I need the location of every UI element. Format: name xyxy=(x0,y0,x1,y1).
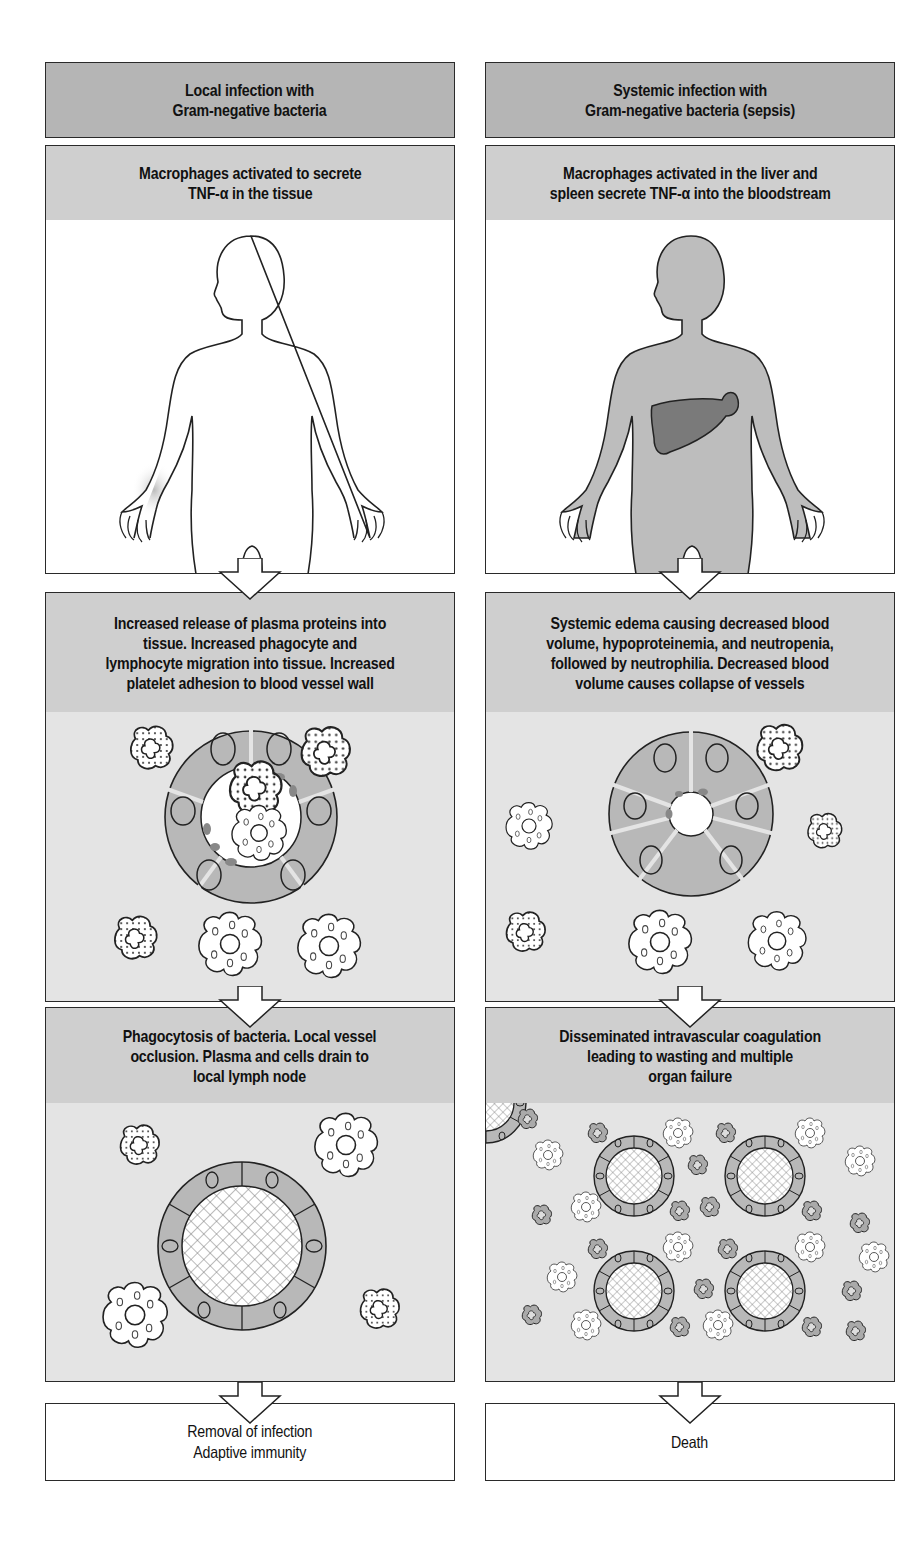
local-outcome-text: Removal of infection Adaptive immunity xyxy=(187,1421,312,1463)
systemic-step1-text: Macrophages activated in the liver and s… xyxy=(550,163,831,203)
flow-arrow-down-icon xyxy=(218,1382,282,1424)
systemic-infection-column: Systemic infection with Gram-negative ba… xyxy=(485,0,897,1543)
human-silhouette-icon xyxy=(46,220,455,574)
flow-arrow-down-icon xyxy=(658,986,722,1028)
systemic-infection-header: Systemic infection with Gram-negative ba… xyxy=(485,62,895,138)
local-infection-header-text: Local infection with Gram-negative bacte… xyxy=(173,80,327,120)
local-step2-text: Increased release of plasma proteins int… xyxy=(105,613,394,693)
flow-arrow-down-icon xyxy=(218,986,282,1028)
local-infection-column: Local infection with Gram-negative bacte… xyxy=(45,0,457,1543)
collapsed-vessel-icon xyxy=(486,712,895,1002)
flow-arrow-down-icon xyxy=(658,558,722,600)
occluded-vessel-icon xyxy=(46,1103,455,1382)
flow-arrow-down-icon xyxy=(658,1382,722,1424)
local-step3-text: Phagocytosis of bacteria. Local vessel o… xyxy=(123,1026,377,1086)
systemic-infection-header-text: Systemic infection with Gram-negative ba… xyxy=(585,80,795,120)
local-step1-box: Macrophages activated to secrete TNF-α i… xyxy=(45,145,455,221)
systemic-vessel-illustration xyxy=(485,712,895,1002)
local-vessel-illustration xyxy=(45,712,455,1002)
local-step1-text: Macrophages activated to secrete TNF-α i… xyxy=(139,163,361,203)
systemic-outcome-text: Death xyxy=(671,1432,708,1453)
disseminated-occluded-vessels-icon xyxy=(486,1103,895,1382)
systemic-body-illustration xyxy=(485,220,895,574)
human-silhouette-with-liver-icon xyxy=(486,220,895,574)
systemic-step1-box: Macrophages activated in the liver and s… xyxy=(485,145,895,221)
local-occlusion-illustration xyxy=(45,1103,455,1382)
systemic-step2-box: Systemic edema causing decreased blood v… xyxy=(485,592,895,713)
local-body-illustration xyxy=(45,220,455,574)
systemic-step2-text: Systemic edema causing decreased blood v… xyxy=(546,613,833,693)
local-infection-header: Local infection with Gram-negative bacte… xyxy=(45,62,455,138)
blood-vessel-icon xyxy=(46,712,455,1002)
systemic-step3-text: Disseminated intravascular coagulation l… xyxy=(559,1026,821,1086)
systemic-occlusion-illustration xyxy=(485,1103,895,1382)
local-step2-box: Increased release of plasma proteins int… xyxy=(45,592,455,713)
flow-arrow-down-icon xyxy=(218,558,282,600)
